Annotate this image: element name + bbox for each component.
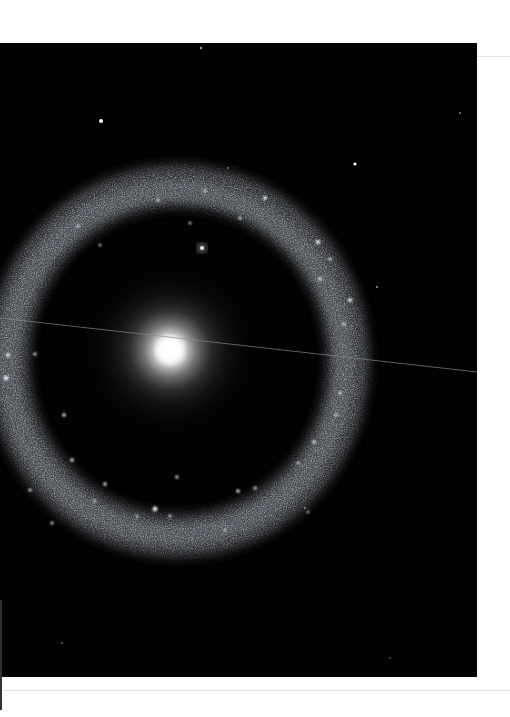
left-edge-line xyxy=(0,600,2,710)
page: Ring galaxy photograph: glowing yellow-w… xyxy=(0,0,510,717)
divider-bottom xyxy=(0,690,510,691)
galaxy-photo xyxy=(0,43,477,677)
divider-top xyxy=(477,56,510,57)
galaxy-image-svg xyxy=(0,43,477,677)
core-nucleus xyxy=(157,337,183,363)
satellite-knot xyxy=(197,243,207,253)
